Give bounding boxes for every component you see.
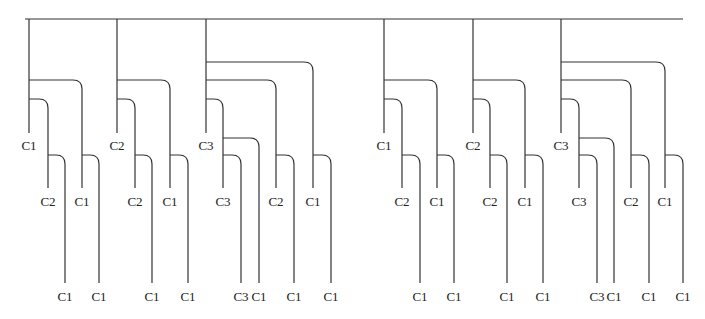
node-label: C2: [482, 194, 497, 209]
node-label: C2: [109, 138, 124, 153]
branch-line: [561, 80, 631, 188]
node-label: C3: [215, 194, 230, 209]
leaf-label: C1: [323, 289, 338, 304]
leaf-line: [135, 155, 152, 283]
node-label: C1: [517, 194, 532, 209]
leaf-line: [631, 155, 649, 283]
leaf-label: C3: [233, 289, 248, 304]
leaf-label: C1: [57, 289, 72, 304]
branch-line: [473, 80, 525, 188]
node-label: C3: [571, 194, 586, 209]
node-label: C2: [127, 194, 142, 209]
leaf-label: C3: [589, 289, 604, 304]
node-label: C1: [74, 194, 89, 209]
node-label: C1: [162, 194, 177, 209]
leaf-label: C1: [446, 289, 461, 304]
branch-line: [384, 80, 437, 188]
leaf-label: C1: [91, 289, 106, 304]
leaf-label: C1: [535, 289, 550, 304]
node-label: C1: [657, 194, 672, 209]
leaf-label: C1: [286, 289, 301, 304]
node-label: C2: [268, 194, 283, 209]
leaf-label: C1: [499, 289, 514, 304]
leaf-line: [223, 155, 241, 283]
node-label: C2: [40, 194, 55, 209]
leaf-line: [665, 155, 683, 283]
leaf-line: [82, 155, 99, 283]
leaf-label: C1: [251, 289, 266, 304]
node-label: C2: [394, 194, 409, 209]
leaf-line: [525, 155, 543, 283]
node-label: C3: [198, 138, 213, 153]
leaf-line: [579, 155, 597, 283]
leaf-line: [313, 155, 331, 283]
leaf-line: [276, 155, 294, 283]
node-label: C3: [553, 138, 568, 153]
leaf-label: C1: [180, 289, 195, 304]
leaf-label: C1: [675, 289, 690, 304]
node-label: C1: [376, 138, 391, 153]
branch-line: [29, 80, 82, 188]
node-label: C1: [305, 194, 320, 209]
leaf-label: C1: [606, 289, 621, 304]
leaf-label: C1: [412, 289, 427, 304]
node-label: C2: [623, 194, 638, 209]
node-label: C1: [429, 194, 444, 209]
leaf-line: [490, 155, 507, 283]
leaf-label: C1: [144, 289, 159, 304]
node-label: C1: [21, 138, 36, 153]
node-label: C2: [465, 138, 480, 153]
leaf-label: C1: [641, 289, 656, 304]
leaf-line: [170, 155, 188, 283]
tree-diagram: C1C1C1C2C1C2C1C1C2C1C3C1C1C2C1C3C1C3C1C1…: [0, 0, 705, 319]
leaf-line: [48, 155, 65, 283]
branch-line: [117, 80, 170, 188]
leaf-line: [437, 155, 454, 283]
leaf-line: [402, 155, 420, 283]
